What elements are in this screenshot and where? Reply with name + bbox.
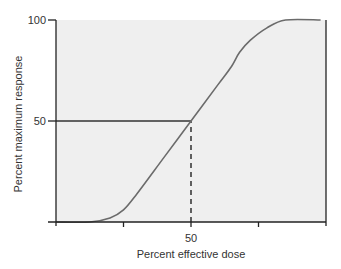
- x-axis-label: Percent effective dose: [137, 248, 246, 260]
- y-tick-label-50: 50: [34, 115, 46, 127]
- dose-response-chart: 100 50 50 Percent effective dose Percent…: [0, 0, 341, 269]
- y-tick-label-100: 100: [28, 14, 46, 26]
- x-tick-label-50: 50: [185, 232, 197, 244]
- y-axis-label: Percent maximum response: [12, 56, 24, 193]
